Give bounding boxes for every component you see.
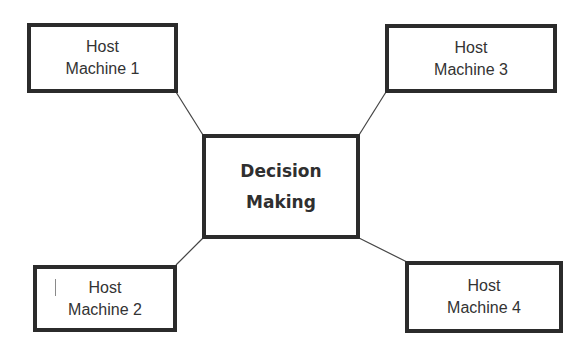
edge-host4-center (359, 238, 407, 262)
center-label-line-1: Decision (240, 156, 321, 187)
text-cursor-mark (55, 279, 56, 296)
edge-host3-center (359, 92, 386, 135)
node-label-line-1: Host (86, 36, 119, 58)
edge-host2-center (176, 238, 203, 265)
node-label-line-2: Machine 4 (447, 297, 521, 319)
node-host-machine-4: Host Machine 4 (405, 261, 563, 333)
node-host-machine-2: Host Machine 2 (33, 265, 177, 332)
diagram-canvas: Host Machine 1 Host Machine 3 Decision M… (0, 0, 588, 353)
node-label-line-1: Host (89, 277, 122, 299)
node-host-machine-1: Host Machine 1 (27, 23, 178, 93)
edge-host1-center (176, 92, 203, 135)
node-decision-making: Decision Making (202, 134, 360, 239)
node-host-machine-3: Host Machine 3 (385, 24, 557, 93)
node-label-line-2: Machine 2 (68, 299, 142, 321)
node-label-line-1: Host (455, 37, 488, 59)
node-label-line-2: Machine 3 (434, 59, 508, 81)
node-label-line-2: Machine 1 (66, 58, 140, 80)
center-label-line-2: Making (246, 187, 316, 218)
node-label-line-1: Host (468, 275, 501, 297)
